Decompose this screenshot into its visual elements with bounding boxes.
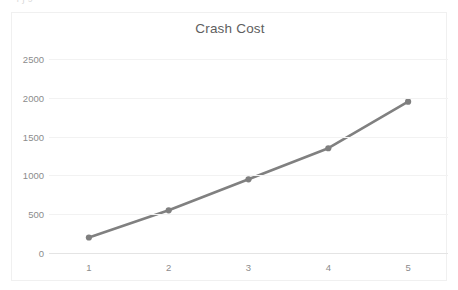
y-axis-tick-labels: 05001000150020002500 <box>2 59 44 253</box>
gridline-y-1500 <box>49 137 448 138</box>
chart-title: Crash Cost <box>12 21 448 36</box>
data-point-5[interactable] <box>405 99 411 105</box>
clipped-text-fragment: — ı ʃ ɔ <box>4 0 33 4</box>
y-axis-tick-1000: 1000 <box>2 170 44 181</box>
y-axis-tick-2000: 2000 <box>2 92 44 103</box>
x-axis-tick-1: 1 <box>86 262 91 273</box>
data-point-1[interactable] <box>86 234 92 240</box>
gridline-y-2500 <box>49 59 448 60</box>
y-axis-tick-1500: 1500 <box>2 131 44 142</box>
x-axis-tick-labels: 12345 <box>49 254 448 278</box>
y-axis-tick-0: 0 <box>2 248 44 259</box>
gridline-y-500 <box>49 214 448 215</box>
x-axis-tick-3: 3 <box>246 262 251 273</box>
gridline-y-1000 <box>49 175 448 176</box>
y-axis-tick-500: 500 <box>2 209 44 220</box>
data-point-2[interactable] <box>166 207 172 213</box>
data-point-3[interactable] <box>245 176 251 182</box>
x-axis-tick-5: 5 <box>405 262 410 273</box>
clipped-document-text: — ı ʃ ɔ <box>0 0 458 11</box>
x-axis-tick-2: 2 <box>166 262 171 273</box>
y-axis-tick-2500: 2500 <box>2 54 44 65</box>
plot-area[interactable] <box>49 59 448 253</box>
gridline-y-2000 <box>49 98 448 99</box>
data-point-4[interactable] <box>325 145 331 151</box>
chart-container[interactable]: Crash Cost 05001000150020002500 12345 <box>11 12 447 281</box>
series-line[interactable] <box>89 102 408 238</box>
line-series-crash-cost[interactable] <box>49 59 448 253</box>
x-axis-tick-4: 4 <box>326 262 331 273</box>
